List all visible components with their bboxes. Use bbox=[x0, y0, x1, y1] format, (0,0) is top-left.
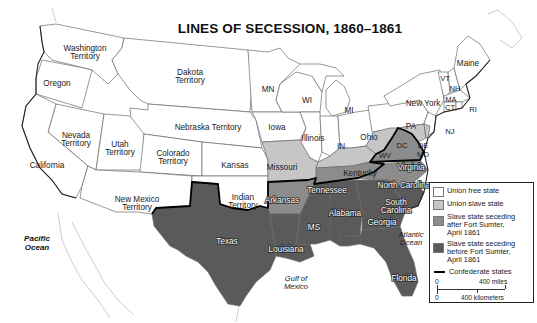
label-new-mexico-2: Territory bbox=[122, 203, 152, 212]
label-nevada-2: Territory bbox=[61, 139, 91, 148]
scale-zero-km: 0 bbox=[435, 294, 439, 301]
label-utah-2: Territory bbox=[105, 148, 135, 157]
legend-item-seceding-after: Slave state seceding after Fort Sumter, … bbox=[433, 213, 515, 237]
label-colorado-2: Territory bbox=[158, 157, 188, 166]
legend-label-seceding-before: Slave state seceding before Fort Sumter,… bbox=[447, 240, 515, 264]
legend-item-seceding-before: Slave state seceding before Fort Sumter,… bbox=[433, 240, 515, 264]
label-indian-2: Territory bbox=[228, 201, 258, 210]
label-vt: VT bbox=[440, 74, 450, 83]
legend-confederate-line bbox=[434, 271, 445, 273]
label-atlantic-2: Ocean bbox=[400, 238, 422, 247]
label-nj: NJ bbox=[445, 127, 454, 136]
label-virginia: Virginia bbox=[397, 163, 425, 172]
label-mi: MI bbox=[344, 106, 353, 115]
legend-swatch-seceding-before bbox=[433, 243, 444, 253]
legend-label-seceding-after: Slave state seceding after Fort Sumter, … bbox=[447, 213, 515, 237]
scale-tick-miles bbox=[505, 285, 506, 289]
label-wi: WI bbox=[302, 96, 312, 105]
label-ct: CT bbox=[445, 103, 455, 112]
label-ms: MS bbox=[308, 223, 321, 232]
legend-item-union-slave: Union slave state bbox=[433, 200, 504, 210]
label-missouri: Missouri bbox=[267, 163, 298, 172]
label-nebraska: Nebraska Territory bbox=[175, 123, 243, 132]
label-dc: DC bbox=[397, 141, 408, 150]
legend-item-confederate: Confederate states bbox=[433, 268, 511, 276]
legend: Union free state Union slave state Slave… bbox=[429, 182, 534, 303]
scale-tick-km bbox=[477, 289, 478, 293]
label-dakota-2: Territory bbox=[175, 76, 205, 85]
label-nh: NH bbox=[450, 84, 461, 93]
label-maine: Maine bbox=[457, 59, 480, 68]
label-mn: MN bbox=[262, 85, 275, 94]
scale-tick-start bbox=[437, 285, 438, 294]
label-georgia: Georgia bbox=[367, 218, 397, 227]
label-arkansas: Arkansas bbox=[265, 196, 299, 205]
scale-zero-miles: 0 bbox=[435, 278, 439, 285]
label-kansas: Kansas bbox=[221, 161, 248, 170]
scale-miles-label: 400 miles bbox=[479, 278, 507, 285]
legend-label-confederate: Confederate states bbox=[449, 268, 511, 276]
label-oregon: Oregon bbox=[43, 79, 71, 88]
label-north-carolina: North Carolina bbox=[378, 181, 431, 190]
label-kentucky: Kentucky bbox=[343, 169, 378, 178]
legend-label-union-slave: Union slave state bbox=[447, 200, 504, 208]
label-ri: RI bbox=[469, 105, 477, 114]
label-florida: Florida bbox=[391, 274, 416, 283]
label-washington-2: Territory bbox=[70, 52, 100, 61]
label-pacific-2: Ocean bbox=[25, 243, 50, 252]
legend-label-union-free: Union free state bbox=[447, 187, 499, 195]
legend-swatch-union-slave bbox=[433, 200, 444, 210]
label-gulf-2: Mexico bbox=[284, 282, 308, 291]
scale-bar: 0 400 miles 0 400 kilometers bbox=[435, 278, 529, 302]
label-new-york: New York bbox=[406, 99, 441, 108]
label-de: DE bbox=[418, 141, 429, 150]
label-alabama: Alabama bbox=[329, 209, 362, 218]
legend-swatch-union-free bbox=[433, 187, 444, 197]
label-pacific-1: Pacific bbox=[24, 234, 50, 243]
label-pa: PA bbox=[406, 122, 417, 131]
label-iowa: Iowa bbox=[268, 123, 286, 132]
label-md: MD bbox=[417, 150, 429, 159]
label-south-carolina-2: Carolina bbox=[381, 206, 412, 215]
label-ohio: Ohio bbox=[360, 133, 378, 142]
legend-item-union-free: Union free state bbox=[433, 187, 499, 197]
scale-line bbox=[437, 289, 505, 290]
scale-km-label: 400 kilometers bbox=[461, 294, 504, 301]
label-louisiana: Louisiana bbox=[268, 245, 303, 254]
legend-swatch-seceding-after bbox=[433, 216, 444, 226]
label-texas: Texas bbox=[216, 237, 237, 246]
legend-after-line-3: April 1861 bbox=[447, 228, 480, 237]
label-in: IN bbox=[337, 142, 345, 151]
legend-before-line-3: April 1861 bbox=[447, 255, 480, 264]
map-title: LINES OF SECESSION, 1860–1861 bbox=[150, 21, 430, 36]
label-california: California bbox=[30, 161, 65, 170]
label-tennessee: Tennessee bbox=[307, 186, 347, 195]
label-wv: WV bbox=[379, 151, 392, 160]
label-illinois: Illinois bbox=[302, 134, 325, 143]
